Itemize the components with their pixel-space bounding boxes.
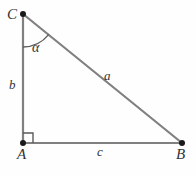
vertex-dot-c (20, 11, 26, 17)
vertex-label-a: A (17, 147, 26, 162)
side-label-c: c (97, 145, 103, 158)
side-label-b: b (9, 78, 16, 91)
triangle-figure: C A B a b c α (0, 0, 196, 177)
vertex-label-c: C (7, 7, 17, 22)
vertex-label-b: B (176, 147, 185, 162)
side-a-line (23, 14, 182, 143)
side-label-a: a (104, 69, 111, 82)
angle-label-alpha: α (32, 41, 39, 55)
